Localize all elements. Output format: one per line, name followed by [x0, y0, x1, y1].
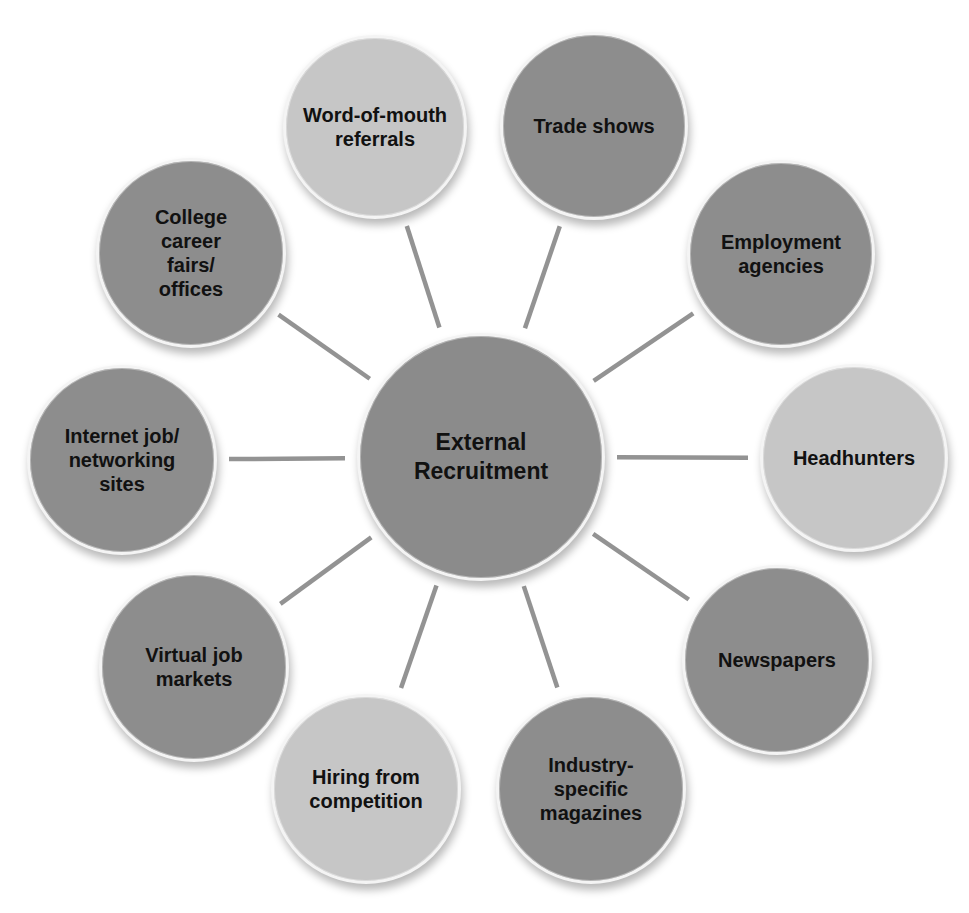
node-trade-shows: Trade shows	[500, 32, 688, 220]
node-label: Headhunters	[787, 446, 921, 470]
node-label: Trade shows	[527, 114, 660, 138]
connector-line-employment-agencies	[594, 313, 694, 380]
connector-line-word-of-mouth-referrals	[407, 226, 440, 327]
node-internet-job-networking-sites: Internet job/ networking sites	[27, 365, 217, 555]
node-virtual-job-markets: Virtual job markets	[99, 572, 289, 762]
node-industry-specific-magazines: Industry- specific magazines	[496, 694, 686, 884]
node-word-of-mouth-referrals: Word-of-mouth referrals	[283, 35, 467, 219]
external-recruitment-diagram: External Recruitment Word-of-mouth refer…	[0, 0, 969, 913]
node-label: Word-of-mouth referrals	[297, 103, 453, 151]
connector-line-virtual-job-markets	[280, 537, 371, 604]
center-node-external-recruitment: External Recruitment	[357, 333, 605, 581]
connector-line-internet-job-networking-sites	[229, 458, 345, 459]
node-label: Industry- specific magazines	[534, 753, 648, 825]
node-headhunters: Headhunters	[760, 364, 948, 552]
node-label: Virtual job markets	[139, 643, 248, 691]
center-node-label: External Recruitment	[408, 428, 554, 486]
connector-line-industry-specific-magazines	[524, 586, 558, 687]
node-hiring-from-competition: Hiring from competition	[271, 694, 461, 884]
node-newspapers: Newspapers	[682, 565, 872, 755]
node-label: Newspapers	[712, 648, 842, 672]
node-employment-agencies: Employment agencies	[687, 160, 875, 348]
connector-line-trade-shows	[525, 226, 560, 328]
node-label: Internet job/ networking sites	[59, 424, 185, 496]
node-college-career-fairs-offices: College career fairs/ offices	[96, 158, 286, 348]
connector-line-hiring-from-competition	[401, 586, 436, 688]
node-label: Hiring from competition	[303, 765, 428, 813]
node-label: College career fairs/ offices	[149, 205, 233, 301]
connector-line-newspapers	[593, 534, 689, 600]
connector-line-college-career-fairs-offices	[279, 315, 370, 379]
node-label: Employment agencies	[715, 230, 847, 278]
